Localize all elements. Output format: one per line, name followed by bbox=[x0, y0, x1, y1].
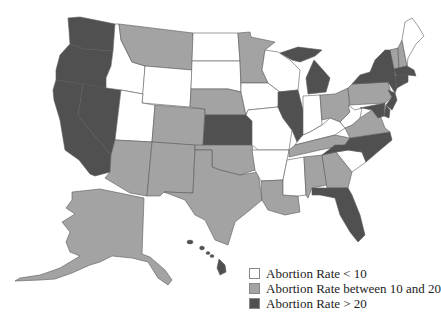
state-PA bbox=[348, 82, 392, 105]
legend-item-mid: Abortion Rate between 10 and 20 bbox=[249, 281, 441, 296]
state-SD bbox=[191, 61, 241, 92]
state-RI bbox=[404, 75, 408, 84]
legend-swatch-mid bbox=[249, 283, 260, 294]
state-FL bbox=[312, 188, 365, 242]
legend-item-low: Abortion Rate < 10 bbox=[249, 266, 441, 281]
legend-swatch-low bbox=[249, 268, 260, 279]
state-AK bbox=[15, 189, 172, 285]
state-NM bbox=[147, 142, 195, 196]
legend-label-high: Abortion Rate > 20 bbox=[266, 296, 367, 312]
state-ND bbox=[192, 33, 240, 61]
state-HI bbox=[187, 240, 226, 275]
legend-swatch-high bbox=[249, 298, 260, 309]
legend-item-high: Abortion Rate > 20 bbox=[249, 296, 441, 311]
map-legend: Abortion Rate < 10 Abortion Rate between… bbox=[249, 266, 441, 311]
state-MI-lower bbox=[306, 60, 330, 94]
state-CO bbox=[152, 105, 205, 146]
state-KS bbox=[203, 115, 252, 145]
legend-label-mid: Abortion Rate between 10 and 20 bbox=[266, 281, 441, 297]
legend-label-low: Abortion Rate < 10 bbox=[266, 266, 367, 282]
state-WY bbox=[142, 66, 192, 107]
state-MS bbox=[283, 157, 306, 196]
